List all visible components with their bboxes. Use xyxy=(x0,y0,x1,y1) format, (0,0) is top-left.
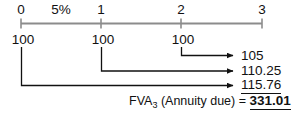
cash-flow-label-period-0: 100 xyxy=(12,33,35,47)
result-value: 331.01 xyxy=(250,93,291,110)
result-name-prefix: FVA xyxy=(129,94,152,108)
interest-rate-label: 5% xyxy=(51,3,71,17)
future-value-label-115-76: 115.76 xyxy=(241,78,281,94)
future-value-label-105: 105 xyxy=(241,49,264,63)
result-formula: FVA3 (Annuity due) = 331.01 xyxy=(129,94,291,110)
compound-path-period-1 xyxy=(102,47,234,71)
equals-sign: = xyxy=(239,94,246,108)
compound-path-period-2 xyxy=(182,47,234,56)
cash-flow-label-period-1: 100 xyxy=(92,33,115,47)
timeline-axis xyxy=(21,19,262,29)
period-label-3: 3 xyxy=(258,3,266,17)
period-label-1: 1 xyxy=(97,3,105,17)
result-name-suffix: (Annuity due) xyxy=(157,94,235,108)
cash-flow-label-period-2: 100 xyxy=(172,33,195,47)
future-value-label-110-25: 110.25 xyxy=(241,64,281,78)
annuity-due-timeline-figure: 0 1 2 3 5% 100 100 100 105 110.25 115.76… xyxy=(0,0,296,114)
period-label-0: 0 xyxy=(17,3,25,17)
period-label-2: 2 xyxy=(177,3,185,17)
compound-path-period-0 xyxy=(22,47,234,86)
